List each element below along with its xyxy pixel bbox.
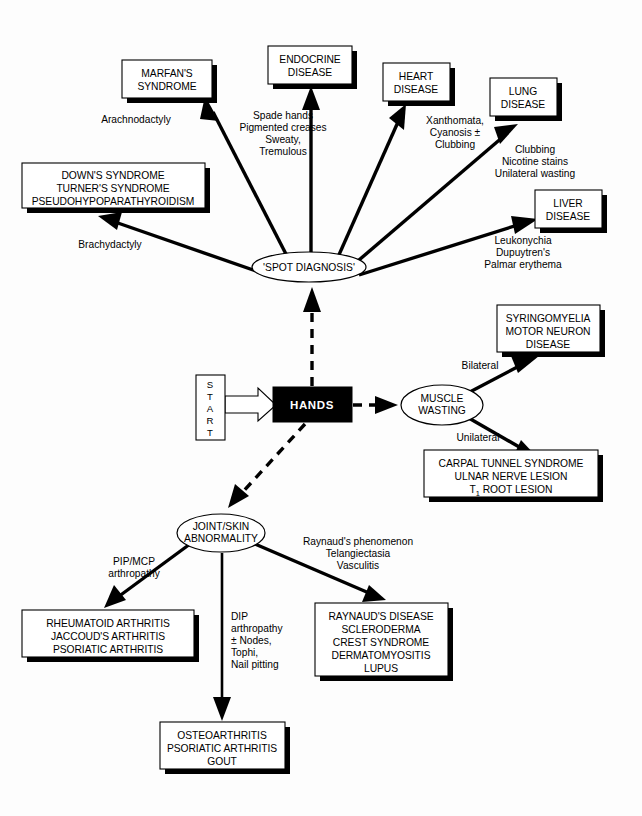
edge-label-raynaud-line3: Vasculitis (337, 560, 379, 571)
edge-spot-to-heart (338, 104, 406, 257)
box-heart-line1: HEART (399, 71, 434, 82)
edge-label-raynaud-line2: Telangiectasia (326, 548, 391, 559)
node-muscle-wasting-line1: MUSCLE (421, 393, 464, 404)
box-liver-disease[interactable]: LIVER DISEASE (535, 190, 607, 233)
node-muscle-wasting[interactable]: MUSCLE WASTING (401, 385, 483, 425)
edge-label-spade-line4: Tremulous (259, 146, 307, 157)
edge-label-leukonychia: Leukonychia Dupuytren's Palmar erythema (484, 235, 562, 270)
edge-label-dip-line5: Nail pitting (231, 659, 279, 670)
box-carpal-tunnel-ulnar-t1[interactable]: CARPAL TUNNEL SYNDROME ULNAR NERVE LESIO… (424, 450, 603, 502)
hands-node[interactable]: HANDS (273, 387, 352, 422)
box-marfans-line1: MARFAN'S (141, 68, 193, 79)
edge-label-arachnodactyly: Arachnodactyly (101, 114, 172, 125)
edge-label-pipmcp-line2: arthropathy (108, 568, 160, 579)
box-downs-line3: PSEUDOHYPOPARATHYROIDISM (32, 196, 195, 207)
box-raynauds-line5: LUPUS (364, 663, 398, 674)
edge-label-spade-hands: Spade hands Pigmented creases Sweaty, Tr… (239, 110, 326, 157)
edge-label-dip-line2: arthropathy (231, 623, 283, 634)
box-raynauds-line1: RAYNAUD'S DISEASE (328, 611, 433, 622)
box-lung-disease[interactable]: LUNG DISEASE (490, 78, 562, 121)
start-letter-5: T (207, 427, 213, 438)
edge-label-clubbing-lung: Clubbing Nicotine stains Unilateral wast… (495, 144, 576, 179)
box-raynauds-scleroderma-crest-dermatomyositis-lupus[interactable]: RAYNAUD'S DISEASE SCLERODERMA CREST SYND… (315, 603, 453, 681)
node-muscle-wasting-line2: WASTING (418, 405, 466, 416)
node-joint-skin-line2: ABNORMALITY (184, 533, 258, 544)
box-endocrine-line1: ENDOCRINE (279, 54, 341, 65)
box-osteoarthritis-psoriatic-gout[interactable]: OSTEOARTHRITIS PSORIATIC ARTHRITIS GOUT (160, 722, 290, 774)
edge-hands-to-muscle-wasting (353, 396, 398, 414)
box-syringomyelia-line1: SYRINGOMYELIA (506, 313, 591, 324)
edge-label-dip-line3: ± Nodes, (231, 635, 272, 646)
node-spot-diagnosis[interactable]: 'SPOT DIAGNOSIS' (252, 252, 366, 282)
edge-label-dip-line4: Tophi, (231, 647, 258, 658)
box-lung-line2: DISEASE (501, 99, 545, 110)
box-rheumatoid-line2: JACCOUD'S ARTHRITIS (51, 631, 165, 642)
edge-label-lung-line3: Unilateral wasting (495, 168, 576, 179)
box-rheumatoid-line3: PSORIATIC ARTHRITIS (53, 644, 163, 655)
box-downs-line2: TURNER'S SYNDROME (56, 183, 169, 194)
edge-hands-to-spot-dashed (303, 287, 321, 386)
box-marfans-syndrome[interactable]: MARFAN'S SYNDROME (122, 60, 217, 103)
edge-label-liver-line3: Palmar erythema (484, 259, 562, 270)
box-endocrine-disease[interactable]: ENDOCRINE DISEASE (268, 46, 357, 89)
box-raynauds-line4: DERMATOMYOSITIS (332, 650, 431, 661)
box-liver-line2: DISEASE (546, 211, 590, 222)
box-carpal-line1: CARPAL TUNNEL SYNDROME (439, 458, 584, 469)
box-lung-line1: LUNG (509, 86, 537, 97)
box-heart-line2: DISEASE (394, 84, 438, 95)
node-joint-skin-abnormality[interactable]: JOINT/SKIN ABNORMALITY (177, 514, 265, 552)
start-letter-3: A (207, 403, 214, 414)
box-carpal-line2: ULNAR NERVE LESION (455, 471, 568, 482)
edge-label-xanthomata-line1: Xanthomata, (426, 115, 484, 126)
start-to-hands-hollow-arrow (225, 388, 276, 421)
box-rheumatoid-jaccouds-psoriatic[interactable]: RHEUMATOID ARTHRITIS JACCOUD'S ARTHRITIS… (22, 610, 199, 662)
edge-label-xanthomata-line2: Cyanosis ± (430, 127, 481, 138)
box-downs-line1: DOWN'S SYNDROME (61, 170, 164, 181)
edge-label-brachydactyly-line1: Brachydactyly (78, 239, 142, 250)
box-osteoarthritis-line1: OSTEOARTHRITIS (177, 730, 267, 741)
edge-label-pip-mcp: PIP/MCP arthropathy (108, 556, 160, 579)
box-syringomyelia-line2: MOTOR NEURON (505, 326, 590, 337)
edge-label-pipmcp-line1: PIP/MCP (113, 556, 155, 567)
edge-hands-to-jointskin-dashed (228, 424, 305, 508)
box-rheumatoid-line1: RHEUMATOID ARTHRITIS (46, 618, 170, 629)
box-osteoarthritis-line2: PSORIATIC ARTHRITIS (167, 743, 277, 754)
box-osteoarthritis-line3: GOUT (207, 756, 237, 767)
start-letter-4: R (207, 415, 214, 426)
edge-label-lung-line2: Nicotine stains (502, 156, 568, 167)
edge-label-spade-line3: Sweaty, (265, 134, 300, 145)
box-raynauds-line3: CREST SYNDROME (333, 637, 430, 648)
box-syringomyelia-motor-neuron-disease[interactable]: SYRINGOMYELIA MOTOR NEURON DISEASE (497, 305, 605, 357)
box-syringomyelia-line3: DISEASE (526, 339, 570, 350)
edge-label-lung-line1: Clubbing (515, 144, 556, 155)
edge-label-xanthomata: Xanthomata, Cyanosis ± Clubbing (426, 115, 484, 150)
start-letter-1: S (207, 379, 213, 390)
edge-label-arachnodactyly-line1: Arachnodactyly (101, 114, 172, 125)
hands-diagnostic-flowchart: MARFAN'S SYNDROME ENDOCRINE DISEASE HEAR… (0, 0, 642, 816)
flowchart-canvas: MARFAN'S SYNDROME ENDOCRINE DISEASE HEAR… (0, 0, 642, 816)
box-downs-turners-pseudohypoparathyroidism[interactable]: DOWN'S SYNDROME TURNER'S SYNDROME PSEUDO… (22, 163, 210, 213)
node-spot-diagnosis-label: 'SPOT DIAGNOSIS' (263, 262, 355, 273)
edge-label-bilateral: Bilateral (462, 360, 499, 371)
start-letter-2: T (207, 391, 213, 402)
edge-label-liver-line1: Leukonychia (494, 235, 552, 246)
edge-label-dip: DIP arthropathy ± Nodes, Tophi, Nail pit… (231, 611, 283, 670)
edge-label-raynauds-phenomenon: Raynaud's phenomenon Telangiectasia Vasc… (303, 536, 413, 571)
edge-joint-to-osteoarthritis (213, 553, 231, 721)
node-joint-skin-line1: JOINT/SKIN (193, 521, 250, 532)
box-raynauds-line2: SCLERODERMA (342, 624, 421, 635)
edge-label-unilateral-line1: Unilateral (456, 432, 499, 443)
edge-label-raynaud-line1: Raynaud's phenomenon (303, 536, 413, 547)
edge-label-brachydactyly: Brachydactyly (78, 239, 142, 250)
edge-label-spade-line2: Pigmented creases (239, 122, 326, 133)
edge-label-spade-line1: Spade hands (253, 110, 313, 121)
edge-label-xanthomata-line3: Clubbing (435, 139, 476, 150)
start-node[interactable]: S T A R T (196, 375, 225, 440)
box-liver-line1: LIVER (553, 198, 583, 209)
edge-label-bilateral-line1: Bilateral (462, 360, 499, 371)
edge-label-dip-line1: DIP (231, 611, 248, 622)
box-heart-disease[interactable]: HEART DISEASE (383, 63, 455, 106)
box-marfans-line2: SYNDROME (137, 81, 196, 92)
edge-label-liver-line2: Dupuytren's (496, 247, 550, 258)
edge-label-unilateral: Unilateral (456, 432, 499, 443)
